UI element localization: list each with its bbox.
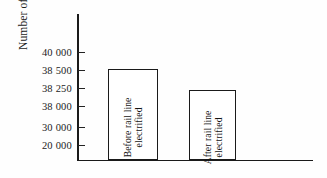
bar-label-line2: electrified: [213, 117, 224, 157]
bar-label-line1: After rail line: [202, 111, 213, 165]
y-tick-mark-30000: [78, 127, 85, 128]
y-tick-mark-38500: [78, 70, 85, 71]
y-tick-label-38250-wrap: 38 250: [14, 83, 72, 94]
bar-label-line2: electrified: [133, 107, 144, 147]
y-axis-title: Number of cars per day: [14, 0, 32, 50]
y-tick-label-20000: 20 000: [16, 140, 72, 151]
y-tick-mark-38000: [78, 106, 85, 107]
y-tick-label-40000: 40 000: [16, 47, 72, 58]
y-tick-mark-38250: [78, 88, 85, 89]
y-tick-label-38250: 38 250: [16, 83, 72, 94]
bar-label-line1: Before rail line: [122, 98, 133, 158]
y-tick-label-30000-wrap: 30 000: [14, 122, 72, 133]
y-tick-mark-40000: [78, 52, 85, 53]
bar-label-before-rail-line-electrified: Before rail line electrified: [122, 90, 145, 164]
y-tick-label-38000-wrap: 38 000: [14, 101, 72, 112]
y-tick-label-38500: 38 500: [16, 65, 72, 76]
y-tick-label-40000-wrap: 40 000: [14, 47, 72, 58]
y-tick-label-20000-wrap: 20 000: [14, 140, 72, 151]
bar-chart: Number of cars per day 40 000 38 500 38 …: [0, 0, 327, 178]
y-tick-label-30000: 30 000: [16, 122, 72, 133]
y-tick-label-38500-wrap: 38 500: [14, 65, 72, 76]
bar-label-after-rail-line-electrified: After rail line electrified: [202, 101, 225, 173]
y-tick-label-38000: 38 000: [16, 101, 72, 112]
y-tick-mark-20000: [78, 145, 85, 146]
